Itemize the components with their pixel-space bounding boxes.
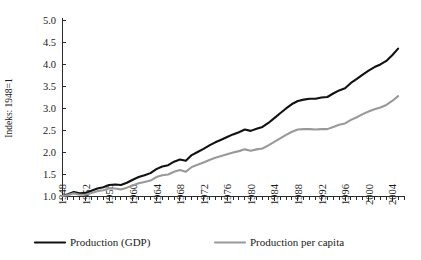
y-axis-title-text: Indeks: 1948=1: [4, 78, 14, 138]
chart-legend: Production (GDP)Production per capita: [35, 236, 344, 249]
x-tick-label: 1972: [199, 184, 210, 205]
legend-label-1: Production per capita: [250, 236, 344, 248]
axis-lines: [62, 18, 404, 196]
x-tick-label: 1984: [269, 183, 280, 205]
x-tick-label: 2000: [364, 184, 375, 205]
y-axis-title: Indeks: 1948=1: [4, 78, 14, 138]
y-tick-label: 1.5: [43, 169, 56, 180]
y-tick-label: 4.0: [43, 59, 56, 70]
x-tick-label: 1964: [152, 183, 163, 205]
y-tick-label: 1.0: [43, 191, 56, 202]
y-tick-label: 5.0: [43, 15, 56, 26]
x-tick-label: 2004: [387, 183, 398, 205]
y-tick-label: 3.5: [43, 81, 56, 92]
chart-figure: Indeks: 1948=1 1.01.52.02.53.03.54.04.55…: [0, 0, 421, 260]
x-tick-label: 1988: [293, 184, 304, 205]
legend-label-0: Production (GDP): [70, 236, 151, 249]
x-tick-label: 1992: [317, 184, 328, 205]
y-tick-label: 2.0: [43, 147, 56, 158]
chart-canvas: Indeks: 1948=1 1.01.52.02.53.03.54.04.55…: [0, 0, 421, 260]
x-tick-label: 1968: [175, 184, 186, 205]
y-tick-label: 3.0: [43, 103, 56, 114]
x-tick-label: 1980: [246, 184, 257, 205]
x-tick-label: 1996: [340, 184, 351, 205]
series-line-1: [62, 96, 398, 196]
y-axis-ticks: 1.01.52.02.53.03.54.04.55.0: [43, 15, 66, 202]
y-tick-label: 4.5: [43, 37, 56, 48]
x-axis-ticks: 1948195219561960196419681972197619801984…: [57, 183, 404, 205]
y-tick-label: 2.5: [43, 125, 56, 136]
x-tick-label: 1976: [222, 184, 233, 205]
series-lines: [62, 49, 398, 196]
